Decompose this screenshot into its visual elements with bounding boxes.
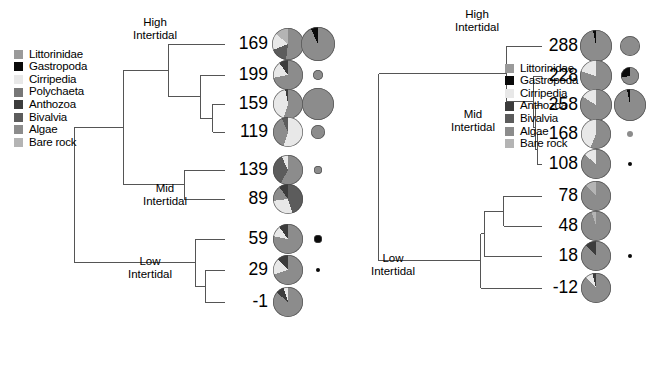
cluster-label-line1: High bbox=[113, 16, 197, 29]
pie-chart bbox=[581, 149, 611, 179]
legend-item-label: Gastropoda bbox=[520, 75, 578, 87]
legend-item-label: Anthozoa bbox=[29, 99, 76, 111]
legend-swatch-algae-icon bbox=[505, 127, 514, 136]
satellite-pie-chart bbox=[311, 125, 325, 139]
legend-swatch-bare-rock-icon bbox=[505, 139, 514, 148]
tip-label: 89 bbox=[249, 190, 268, 208]
pie-outline bbox=[580, 60, 612, 92]
satellite-pie-chart bbox=[627, 131, 633, 137]
legend-item-label: Polychaeta bbox=[29, 86, 84, 98]
cluster-label-line2: Intertidal bbox=[113, 29, 197, 42]
cluster-label-line2: Intertidal bbox=[108, 268, 192, 281]
pie-chart bbox=[580, 30, 612, 62]
cluster-label: MidIntertidal bbox=[431, 108, 515, 133]
pie-chart bbox=[273, 89, 303, 119]
tip-label: 159 bbox=[239, 95, 268, 113]
legend-item: Cirripedia bbox=[505, 87, 578, 100]
satellite-pie-chart bbox=[314, 235, 322, 243]
legend-item-label: Algae bbox=[29, 124, 57, 136]
legend-item: Bare rock bbox=[505, 138, 578, 151]
panel-left-dendrogram: 169199159119139895929-1HighIntertidalMid… bbox=[0, 0, 329, 388]
cluster-label: LowIntertidal bbox=[108, 255, 192, 280]
legend-item-label: Littorinidae bbox=[520, 63, 574, 75]
legend-swatch-cirripedia-icon bbox=[14, 75, 23, 84]
legend-item: Bivalvia bbox=[505, 112, 578, 125]
figure-root: 169199159119139895929-1HighIntertidalMid… bbox=[0, 0, 659, 388]
legend-item-label: Littorinidae bbox=[29, 49, 83, 61]
cluster-label-line2: Intertidal bbox=[351, 265, 435, 278]
legend-item: Anthozoa bbox=[14, 98, 87, 111]
legend-item-label: Bivalvia bbox=[520, 113, 558, 125]
tip-label: 119 bbox=[240, 123, 268, 141]
cluster-label: MidIntertidal bbox=[123, 182, 207, 207]
legend-item: Bare rock bbox=[14, 136, 87, 149]
pie-outline bbox=[273, 117, 303, 147]
satellite-pie-chart bbox=[621, 67, 639, 85]
tip-label: 59 bbox=[249, 230, 268, 248]
legend-item-label: Anthozoa bbox=[520, 100, 567, 112]
satellite-pie-chart bbox=[314, 166, 322, 174]
cluster-label-line1: Low bbox=[351, 252, 435, 265]
pie-outline bbox=[273, 60, 303, 90]
legend-item-label: Cirripedia bbox=[29, 74, 76, 86]
legend-swatch-bare-rock-icon bbox=[14, 138, 23, 147]
pie-outline bbox=[273, 255, 303, 285]
satellite-pie-outline bbox=[311, 125, 325, 139]
pie-outline bbox=[581, 119, 611, 149]
pie-outline bbox=[581, 273, 611, 303]
pie-chart bbox=[273, 60, 303, 90]
legend-item: Gastropoda bbox=[505, 75, 578, 88]
pie-chart bbox=[273, 255, 303, 285]
tip-label: 18 bbox=[559, 247, 578, 265]
legend-item-label: Algae bbox=[520, 126, 548, 138]
tip-label: 199 bbox=[239, 66, 268, 84]
legend-item: Cirripedia bbox=[14, 73, 87, 86]
pie-chart bbox=[580, 89, 612, 121]
satellite-pie-outline bbox=[614, 89, 646, 121]
pie-outline bbox=[273, 155, 303, 185]
pie-chart bbox=[580, 60, 612, 92]
satellite-pie-chart bbox=[313, 70, 323, 80]
panel-right-dendrogram: 288228258168108784818-12HighIntertidalMi… bbox=[330, 0, 659, 388]
legend-item: Polychaeta bbox=[14, 86, 87, 99]
tip-label: 108 bbox=[549, 155, 578, 173]
cluster-label: HighIntertidal bbox=[435, 8, 519, 33]
legend-swatch-gastropoda-icon bbox=[14, 62, 23, 71]
legend-swatch-littorinidae-icon bbox=[505, 64, 514, 73]
pie-outline bbox=[273, 89, 303, 119]
pie-outline bbox=[581, 241, 611, 271]
cluster-label-line1: Mid bbox=[123, 182, 207, 195]
legend-item-label: Cirripedia bbox=[520, 88, 567, 100]
tip-label: -12 bbox=[553, 279, 578, 297]
pie-chart bbox=[581, 181, 611, 211]
legend-item: Littorinidae bbox=[14, 48, 87, 61]
caption-strip bbox=[0, 378, 659, 388]
legend-item-label: Bivalvia bbox=[29, 112, 67, 124]
cluster-label-line2: Intertidal bbox=[431, 121, 515, 134]
satellite-pie-chart bbox=[628, 162, 632, 166]
tip-label: -1 bbox=[252, 293, 268, 311]
tip-label: 288 bbox=[549, 37, 578, 55]
legend-swatch-polychaeta-icon bbox=[14, 88, 23, 97]
legend-item: Littorinidae bbox=[505, 62, 578, 75]
pie-outline bbox=[580, 30, 612, 62]
legend-swatch-littorinidae-icon bbox=[14, 50, 23, 59]
cluster-label-line1: Mid bbox=[431, 108, 515, 121]
pie-outline bbox=[581, 211, 611, 241]
satellite-pie-chart bbox=[316, 268, 320, 272]
satellite-pie-outline bbox=[314, 235, 322, 243]
satellite-pie-outline bbox=[621, 67, 639, 85]
legend-swatch-algae-icon bbox=[14, 125, 23, 134]
pie-outline bbox=[581, 149, 611, 179]
pie-outline bbox=[273, 287, 303, 317]
cluster-label: LowIntertidal bbox=[351, 252, 435, 277]
pie-chart bbox=[581, 211, 611, 241]
tip-label: 29 bbox=[249, 261, 268, 279]
legend-item: Algae bbox=[505, 125, 578, 138]
pie-chart bbox=[272, 28, 304, 60]
legend-item: Anthozoa bbox=[505, 100, 578, 113]
pie-outline bbox=[273, 184, 303, 214]
legend: LittorinidaeGastropodaCirripediaPolychae… bbox=[14, 48, 87, 149]
legend-swatch-anthozoa-icon bbox=[505, 102, 514, 111]
satellite-pie-outline bbox=[620, 36, 640, 56]
